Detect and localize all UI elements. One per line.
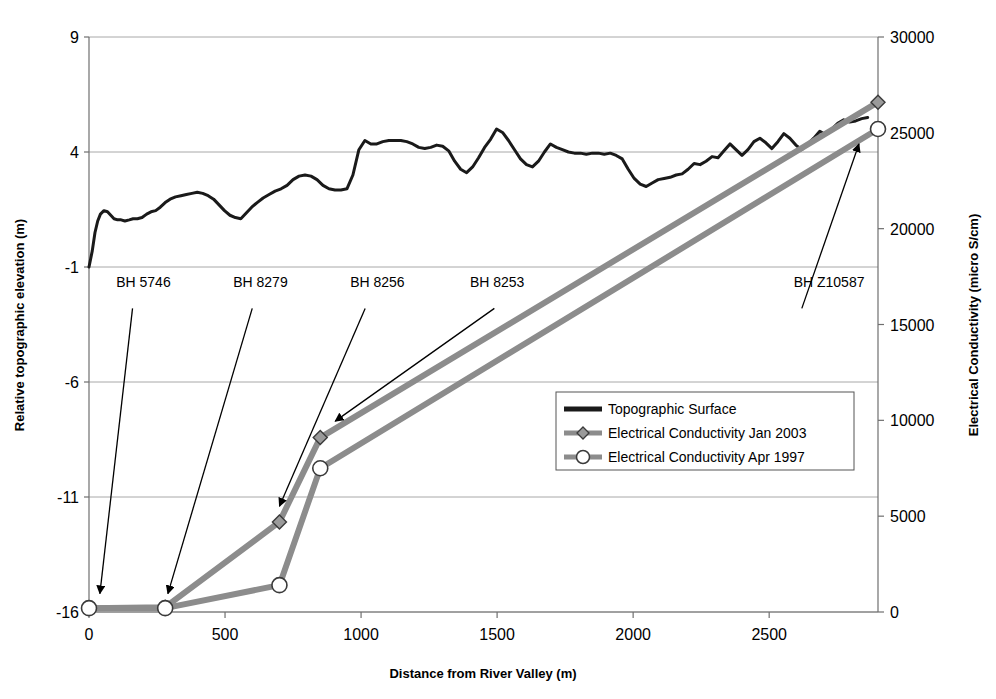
tick-label-left: -11 (57, 489, 79, 506)
data-point-marker-circle (871, 122, 886, 137)
x-axis-title: Distance from River Valley (m) (389, 666, 576, 681)
borehole-label: BH Z10587 (794, 274, 865, 290)
tick-label-bottom: 1000 (343, 626, 379, 643)
tick-label-right: 10000 (890, 412, 935, 429)
tick-label-bottom: 2500 (751, 626, 787, 643)
tick-label-right: 15000 (890, 317, 935, 334)
borehole-label: BH 8253 (470, 274, 525, 290)
tick-label-right: 30000 (890, 29, 935, 46)
legend-item-label: Electrical Conductivity Apr 1997 (608, 449, 805, 465)
tick-label-right: 20000 (890, 221, 935, 238)
tick-label-left: 9 (70, 29, 79, 46)
tick-label-left: -6 (65, 374, 79, 391)
tick-label-bottom: 2000 (615, 626, 651, 643)
chart-legend: Topographic SurfaceElectrical Conductivi… (556, 392, 854, 470)
tick-label-right: 0 (890, 604, 899, 621)
scientific-line-chart: -16-11-6-149 050001000015000200002500030… (0, 0, 996, 699)
tick-label-bottom: 0 (85, 626, 94, 643)
data-point-marker-circle (272, 578, 287, 593)
y-axis-right-title: Electrical Conductivity (micro S/cm) (966, 214, 981, 437)
data-point-marker-circle (82, 601, 97, 616)
chart-background (0, 0, 996, 699)
data-point-marker-circle (313, 461, 328, 476)
tick-label-left: -1 (65, 259, 79, 276)
data-point-marker-circle (158, 601, 173, 616)
y-axis-left-title: Relative topographic elevation (m) (12, 219, 27, 431)
tick-label-left: -16 (56, 604, 79, 621)
borehole-label: BH 8279 (233, 274, 288, 290)
tick-label-bottom: 1500 (479, 626, 515, 643)
borehole-label: BH 5746 (116, 274, 171, 290)
tick-label-left: 4 (70, 144, 79, 161)
chart-container: -16-11-6-149 050001000015000200002500030… (0, 0, 996, 699)
tick-label-right: 5000 (890, 508, 926, 525)
tick-label-bottom: 500 (212, 626, 239, 643)
legend-marker-circle (577, 451, 590, 464)
legend-item-label: Topographic Surface (608, 401, 737, 417)
legend-item-label: Electrical Conductivity Jan 2003 (608, 425, 807, 441)
borehole-label: BH 8256 (350, 274, 405, 290)
tick-label-right: 25000 (890, 125, 935, 142)
